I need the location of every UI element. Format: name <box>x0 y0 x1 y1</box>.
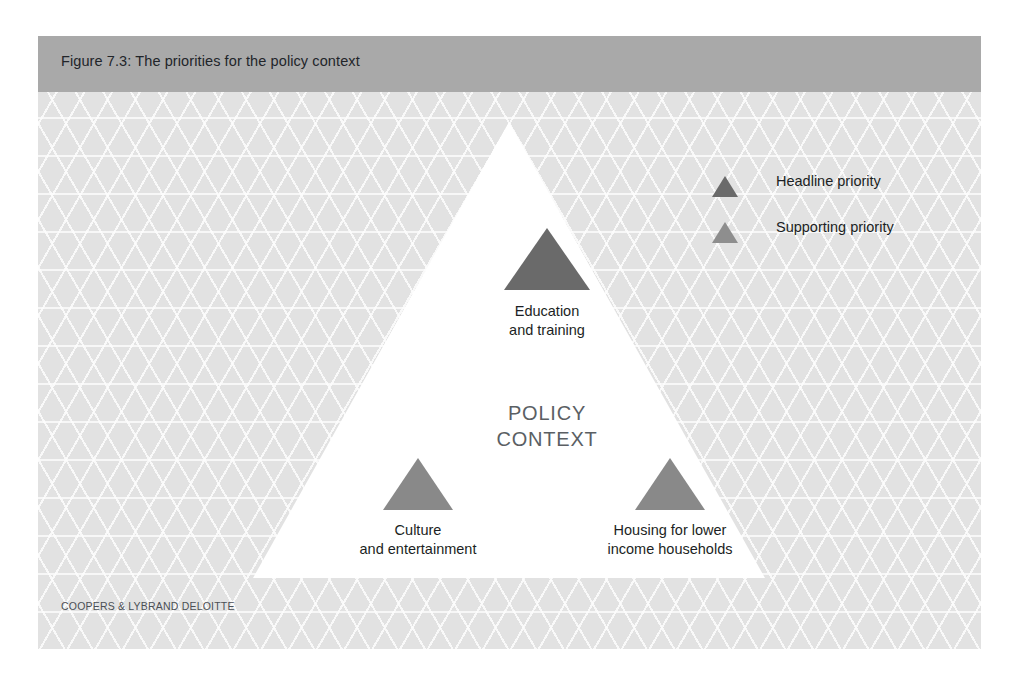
figure-panel: Figure 7.3: The priorities for the polic… <box>38 36 981 649</box>
node-label-housing-line2: income households <box>608 540 733 559</box>
triangle-icon-supporting-priority <box>712 222 738 243</box>
node-label-culture-line2: and entertainment <box>360 540 477 559</box>
policy-context-label-line1: POLICY <box>496 400 597 426</box>
footer-credit: COOPERS & LYBRAND DELOITTE <box>61 600 235 612</box>
triangle-icon-headline-priority <box>712 176 738 197</box>
node-label-culture: Culture and entertainment <box>360 521 477 559</box>
node-label-housing-line1: Housing for lower <box>608 521 733 540</box>
triangle-icon-culture <box>383 458 453 510</box>
legend-label-supporting-priority: Supporting priority <box>776 219 894 235</box>
triangle-icon-education <box>504 228 590 290</box>
legend-label-headline-priority: Headline priority <box>776 173 881 189</box>
figure-title: Figure 7.3: The priorities for the polic… <box>61 53 360 69</box>
node-label-culture-line1: Culture <box>360 521 477 540</box>
node-label-education-line1: Education <box>509 302 585 321</box>
figure-header-band: Figure 7.3: The priorities for the polic… <box>38 36 981 92</box>
policy-context-label: POLICY CONTEXT <box>496 400 597 452</box>
node-label-education-line2: and training <box>509 321 585 340</box>
node-label-housing: Housing for lower income households <box>608 521 733 559</box>
triangle-icon-housing <box>635 458 705 510</box>
policy-context-label-line2: CONTEXT <box>496 426 597 452</box>
node-label-education: Education and training <box>509 302 585 340</box>
